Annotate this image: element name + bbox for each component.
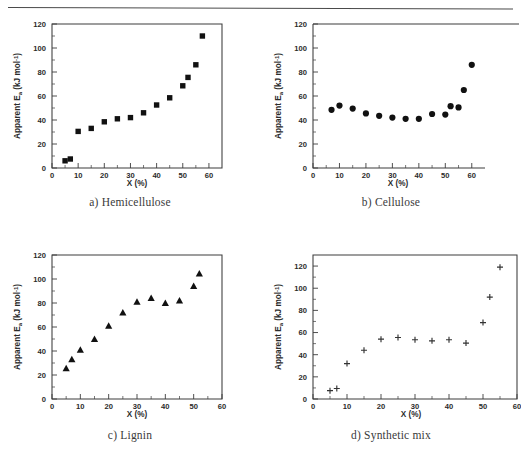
data-point (68, 356, 75, 362)
data-point (185, 75, 190, 80)
data-point (62, 158, 67, 163)
y-tick-label: 0 (303, 164, 307, 173)
data-point (154, 102, 159, 107)
data-point (378, 336, 384, 342)
x-tick-label: 10 (343, 402, 351, 411)
caption-a: a) Hemicellulose (0, 196, 260, 208)
plot-area-d: 020406080100120 0102030405060 Apparent E… (261, 243, 521, 421)
data-point (89, 126, 94, 131)
data-point (327, 388, 333, 394)
y-axis-title-b: Apparent Ea (kJ mol-1) (274, 53, 285, 139)
x-tick-label: 50 (189, 402, 197, 411)
x-tick-label: 60 (205, 171, 213, 180)
y-tick-label: 40 (38, 347, 46, 356)
data-point (461, 87, 467, 93)
data-point (376, 113, 382, 119)
y-tick-label: 0 (42, 164, 46, 173)
x-tick-label: 20 (104, 402, 112, 411)
data-point (416, 116, 422, 122)
data-point (350, 106, 356, 112)
data-point (429, 338, 435, 344)
data-point (336, 103, 342, 109)
y-tick-marks-a: 020406080100120 (33, 20, 57, 173)
y-tick-label: 80 (38, 299, 46, 308)
data-point (469, 62, 475, 68)
x-tick-label: 0 (50, 171, 54, 180)
axes-frame-c (52, 255, 222, 399)
data-point (463, 340, 469, 346)
data-point (193, 62, 198, 67)
x-tick-label: 0 (311, 402, 315, 411)
y-tick-label: 120 (33, 20, 46, 29)
data-point (162, 299, 169, 305)
y-axis-title-a: Apparent Ea (kJ mol-1) (13, 53, 24, 139)
data-point (334, 385, 340, 391)
y-tick-label: 80 (299, 306, 307, 315)
caption-b: b) Cellulose (261, 196, 521, 208)
x-tick-label: 60 (468, 171, 476, 180)
y-axis-title-c: Apparent Ea (kJ mol-1) (13, 284, 24, 370)
x-tick-label: 10 (76, 402, 84, 411)
data-point (141, 110, 146, 115)
data-point (148, 295, 155, 301)
data-point (133, 298, 140, 304)
data-point (395, 335, 401, 341)
scatter-plot-b: 020406080100120 0102030405060 Apparent E… (261, 10, 521, 188)
data-point (487, 294, 493, 300)
data-point (363, 110, 369, 116)
x-tick-label: 20 (377, 402, 385, 411)
y-tick-label: 20 (299, 140, 307, 149)
x-tick-label: 60 (513, 402, 521, 411)
data-point (200, 33, 205, 38)
caption-c: c) Lignin (0, 429, 260, 441)
x-tick-marks-d: 0102030405060 (311, 394, 521, 411)
y-axis-title-d: Apparent Ea (kJ mol-1) (274, 284, 285, 370)
scatter-plot-a: 020406080100120 0102030405060 Apparent E… (0, 10, 260, 188)
scatter-plot-d: 020406080100120 0102030405060 Apparent E… (261, 243, 521, 421)
y-tick-label: 60 (299, 328, 307, 337)
data-point (448, 103, 454, 109)
data-point (403, 116, 409, 122)
data-point (446, 337, 452, 343)
axes-frame-d (313, 255, 517, 399)
y-tick-label: 0 (42, 395, 46, 404)
x-tick-label: 20 (100, 171, 108, 180)
data-point (105, 322, 112, 328)
y-tick-label: 20 (38, 371, 46, 380)
data-point (75, 129, 80, 134)
data-point (176, 297, 183, 303)
plot-area-a: 020406080100120 0102030405060 Apparent E… (0, 10, 260, 188)
data-point (63, 365, 70, 371)
x-tick-label: 60 (218, 402, 226, 411)
panel-hemicellulose: 020406080100120 0102030405060 Apparent E… (0, 10, 260, 235)
y-tick-label: 20 (299, 373, 307, 382)
axes-frame-a (52, 24, 222, 168)
data-point (115, 116, 120, 121)
y-tick-label: 100 (33, 275, 46, 284)
x-tick-marks-a: 0102030405060 (50, 163, 213, 180)
panel-lignin: 020406080100120 0102030405060 Apparent E… (0, 243, 260, 469)
data-point (128, 115, 133, 120)
data-point (361, 347, 367, 353)
data-point (102, 119, 107, 124)
panel-cellulose: 020406080100120 0102030405060 Apparent E… (261, 10, 521, 235)
axes-frame-b (313, 24, 519, 168)
y-tick-label: 40 (38, 116, 46, 125)
data-point (389, 115, 395, 121)
x-tick-label: 0 (50, 402, 54, 411)
y-tick-label: 60 (38, 323, 46, 332)
x-tick-label: 50 (179, 171, 187, 180)
data-point (167, 95, 172, 100)
y-tick-label: 40 (299, 116, 307, 125)
x-tick-label: 50 (441, 171, 449, 180)
svg-text:Apparent Ea (kJ mol-1): Apparent Ea (kJ mol-1) (13, 284, 24, 370)
figure-panel-grid: 020406080100120 0102030405060 Apparent E… (0, 0, 521, 469)
data-point (429, 111, 435, 117)
y-tick-label: 80 (38, 68, 46, 77)
panel-synthetic-mix: 020406080100120 0102030405060 Apparent E… (261, 243, 521, 469)
data-point (196, 270, 203, 276)
x-tick-label: 40 (161, 402, 169, 411)
plot-area-c: 020406080100120 0102030405060 Apparent E… (0, 243, 260, 421)
data-point (190, 283, 197, 289)
x-axis-title-c: X (%) (127, 410, 148, 419)
